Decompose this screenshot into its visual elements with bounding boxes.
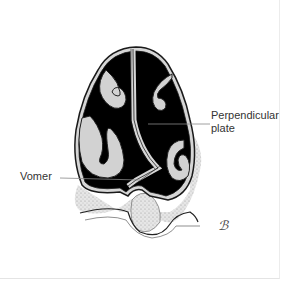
label-perpendicular-plate-line2: plate: [211, 122, 279, 135]
label-perpendicular-plate: Perpendicular plate: [211, 109, 279, 135]
nasal-cavity-illustration: [0, 0, 283, 282]
artist-signature-icon: ℬ: [218, 218, 228, 233]
label-vomer: Vomer: [20, 170, 52, 183]
label-perpendicular-plate-line1: Perpendicular: [211, 109, 279, 122]
